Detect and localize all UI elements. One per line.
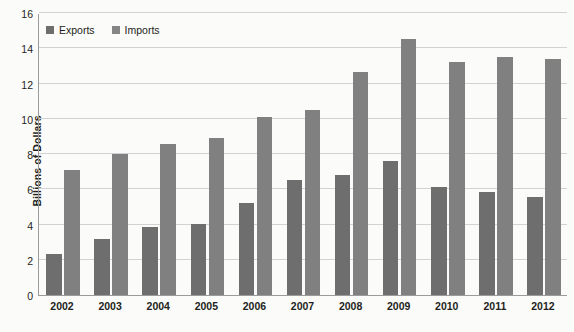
bar-exports-2004 <box>142 227 158 295</box>
x-axis-tick-label: 2010 <box>435 300 458 312</box>
x-axis-tick-label: 2008 <box>339 300 362 312</box>
y-axis-tick-label: 0 <box>5 290 33 302</box>
bar-exports-2007 <box>287 180 303 295</box>
bar-imports-2007 <box>305 110 321 295</box>
bar-exports-2012 <box>527 197 543 295</box>
bar-exports-2003 <box>94 239 110 295</box>
x-axis-tick-label: 2004 <box>147 300 170 312</box>
legend-item-imports: Imports <box>112 24 160 36</box>
bar-imports-2004 <box>160 144 176 295</box>
bar-imports-2009 <box>401 39 417 295</box>
x-axis-tick-label: 2003 <box>98 300 121 312</box>
bar-exports-2008 <box>335 175 351 295</box>
x-axis-tick-label: 2007 <box>291 300 314 312</box>
x-axis-tick-label: 2012 <box>531 300 554 312</box>
y-axis-tick-label: 12 <box>5 79 33 91</box>
y-axis-tick-labels: 0246810121416 <box>0 14 33 296</box>
y-axis-tick-label: 4 <box>5 220 33 232</box>
gridline <box>39 12 567 13</box>
y-axis-tick-label: 16 <box>5 8 33 20</box>
bar-exports-2011 <box>479 192 495 295</box>
bar-exports-2009 <box>383 161 399 295</box>
y-axis-tick-label: 6 <box>5 184 33 196</box>
bar-imports-2003 <box>112 154 128 295</box>
x-axis-tick-label: 2002 <box>50 300 73 312</box>
bar-exports-2006 <box>239 203 255 295</box>
bar-imports-2006 <box>257 117 273 295</box>
bar-imports-2005 <box>209 138 225 295</box>
legend-item-exports: Exports <box>46 24 95 36</box>
bar-imports-2008 <box>353 72 369 295</box>
bar-imports-2002 <box>64 170 80 295</box>
bar-imports-2012 <box>545 59 561 295</box>
legend-label: Exports <box>59 24 95 36</box>
bars-layer <box>39 14 567 295</box>
legend-label: Imports <box>125 24 160 36</box>
legend-swatch-imports-icon <box>112 26 120 34</box>
bar-chart: Billions of Dollars 0246810121416 200220… <box>0 0 574 332</box>
x-axis-tick-label: 2006 <box>243 300 266 312</box>
y-axis-tick-label: 8 <box>5 149 33 161</box>
y-axis-tick-label: 10 <box>5 114 33 126</box>
bar-imports-2010 <box>449 62 465 295</box>
x-axis-tick-label: 2011 <box>483 300 506 312</box>
legend-swatch-exports-icon <box>46 26 54 34</box>
y-axis-tick-label: 2 <box>5 255 33 267</box>
chart-legend: ExportsImports <box>46 24 160 36</box>
x-axis-tick-label: 2005 <box>195 300 218 312</box>
bar-exports-2002 <box>46 254 62 295</box>
bar-exports-2010 <box>431 187 447 295</box>
x-axis-tick-label: 2009 <box>387 300 410 312</box>
plot-area <box>38 14 567 296</box>
bar-imports-2011 <box>497 57 513 295</box>
bar-exports-2005 <box>191 224 207 295</box>
y-axis-tick-label: 14 <box>5 43 33 55</box>
